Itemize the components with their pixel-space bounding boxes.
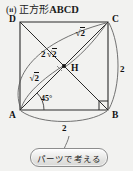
radicand-ah: 2 <box>34 72 39 83</box>
measure-label-bc: 2 <box>120 65 125 74</box>
vertex-label-c: C <box>112 15 119 25</box>
radical-hc: √2 <box>74 29 85 38</box>
measure-label-diagonal-ac: 2√2 <box>41 50 57 59</box>
point-h-marker <box>62 64 66 68</box>
arc-ab <box>21 111 107 122</box>
arc-diagonal-ac <box>18 23 106 109</box>
radicand-2root2: 2 <box>52 48 57 59</box>
angle-label-45: 45° <box>41 95 52 103</box>
vertex-label-b: B <box>112 111 118 121</box>
think-in-parts-button-label: パーツで考える <box>37 152 101 164</box>
point-label-h: H <box>71 64 78 74</box>
vertex-label-a: A <box>9 111 16 121</box>
radical-ah: √2 <box>28 74 39 83</box>
measure-label-ah: √2 <box>28 74 39 83</box>
arc-bc <box>109 23 118 109</box>
radical-2root2: √2 <box>46 50 57 59</box>
measure-label-ab: 2 <box>62 124 67 133</box>
vertex-label-d: D <box>9 15 16 25</box>
think-in-parts-button[interactable]: パーツで考える <box>30 148 108 167</box>
measure-label-hc: √2 <box>74 29 85 38</box>
radicand-hc: 2 <box>80 27 85 38</box>
figure-panel: (ii) 正方形ABCD <box>0 0 133 171</box>
